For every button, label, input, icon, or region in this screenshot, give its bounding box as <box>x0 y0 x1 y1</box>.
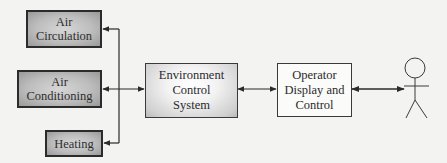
stick-figure-person-icon <box>404 58 429 118</box>
air-conditioning-label-line2: Conditioning <box>27 89 93 103</box>
heating-box: Heating <box>45 130 103 157</box>
operator-label-line3: Control <box>295 98 333 113</box>
operator-label-line1: Operator <box>292 68 336 83</box>
ecs-label-line2: Control <box>172 83 210 98</box>
air-circulation-box: Air Circulation <box>26 10 102 48</box>
air-conditioning-label-line1: Air <box>51 75 68 89</box>
air-circulation-label-line1: Air <box>56 15 73 29</box>
ecs-label-line3: System <box>173 98 210 113</box>
ecs-label-line1: Environment <box>159 68 224 83</box>
environment-control-system-box: Environment Control System <box>145 63 238 118</box>
air-conditioning-box: Air Conditioning <box>17 70 102 108</box>
operator-label-line2: Display and <box>284 83 344 98</box>
heating-label: Heating <box>54 137 94 151</box>
operator-display-and-control-box: Operator Display and Control <box>277 63 352 117</box>
air-circulation-label-line2: Circulation <box>36 29 92 43</box>
